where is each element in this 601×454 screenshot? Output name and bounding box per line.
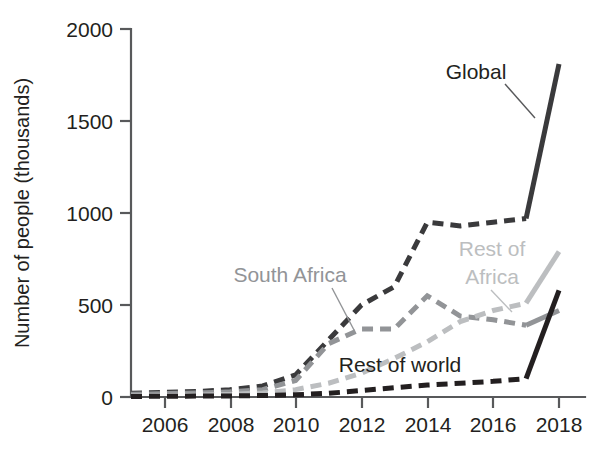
x-tick-label-2016: 2016 [470, 413, 517, 436]
x-tick-label-2014: 2014 [405, 413, 452, 436]
annotation-rest-of-africa-line2: Africa [465, 265, 519, 288]
line-chart: Number of people (thousands) 2000 1500 1… [0, 0, 601, 454]
y-tick-label-1500: 1500 [66, 110, 113, 133]
x-tick-label-2018: 2018 [536, 413, 583, 436]
series-line-rest-of-africa [526, 252, 559, 304]
x-tick-label-2010: 2010 [273, 413, 320, 436]
chart-figure: Number of people (thousands) 2000 1500 1… [0, 0, 601, 454]
series-line-south-africa [131, 296, 526, 394]
x-tick-label-2008: 2008 [208, 413, 255, 436]
y-tick-label-0: 0 [101, 386, 113, 409]
y-tick-label-500: 500 [78, 294, 113, 317]
x-tick-label-2006: 2006 [142, 413, 189, 436]
y-tick-label-2000: 2000 [66, 18, 113, 41]
series-line-south-africa [526, 311, 559, 326]
annotation-rest-of-world: Rest of world [339, 353, 462, 376]
annotation-global: Global [446, 60, 507, 83]
series-line-rest-of-world [526, 290, 559, 378]
x-tick-label-2012: 2012 [339, 413, 386, 436]
y-tick-label-1000: 1000 [66, 202, 113, 225]
annotation-rest-of-africa-line1: Rest of [459, 237, 526, 260]
leader-global [505, 84, 535, 118]
series-layer [131, 64, 559, 396]
annotation-south-africa: South Africa [233, 263, 347, 286]
series-line-rest-of-africa [131, 303, 526, 396]
y-axis-title: Number of people (thousands) [11, 78, 33, 348]
series-line-global [526, 64, 559, 219]
